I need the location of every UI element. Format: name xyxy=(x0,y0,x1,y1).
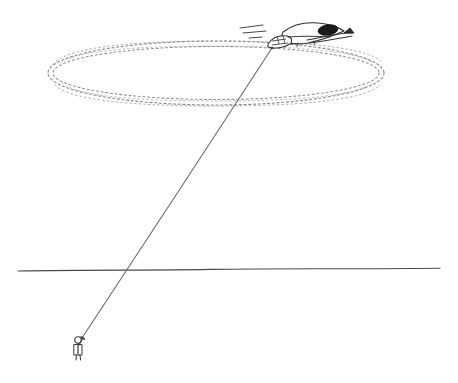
sketch-svg xyxy=(0,0,458,383)
flight-path-top-doubling xyxy=(53,41,382,64)
aircraft-nose xyxy=(268,36,292,48)
pilot-figure xyxy=(74,337,84,360)
flight-path-inner-ellipse xyxy=(53,47,379,100)
horizon-line xyxy=(18,268,440,271)
pilot-legs xyxy=(76,355,81,360)
illustration-canvas: Control-line model aircraft circling on … xyxy=(0,0,458,383)
tether-attach-point xyxy=(271,47,273,49)
flight-path-outer-ellipse xyxy=(48,41,384,105)
control-line-tether xyxy=(82,48,272,338)
aircraft-tail-fin xyxy=(344,28,354,33)
speed-lines-icon xyxy=(240,25,266,38)
flight-path-oval xyxy=(48,41,384,106)
control-handle xyxy=(81,337,84,339)
